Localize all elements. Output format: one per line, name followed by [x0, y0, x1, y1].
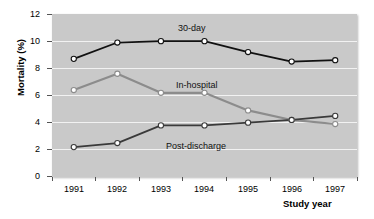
data-point-marker: [202, 90, 207, 95]
data-point-marker: [71, 56, 76, 61]
data-point-marker: [333, 121, 338, 126]
data-point-marker: [115, 140, 120, 145]
data-point-marker: [158, 123, 163, 128]
data-point-marker: [71, 145, 76, 150]
data-point-marker: [115, 71, 120, 76]
data-point-marker: [333, 113, 338, 118]
mortality-line-chart: Mortality (%) 12 10 8 6 4 2 0 1991 1992 …: [0, 0, 374, 219]
data-point-marker: [289, 59, 294, 64]
series-label-in-hospital: In-hospital: [176, 81, 218, 90]
data-point-marker: [202, 123, 207, 128]
data-point-marker: [289, 117, 294, 122]
data-point-marker: [245, 108, 250, 113]
data-point-marker: [115, 40, 120, 45]
series-label-30-day: 30-day: [178, 24, 206, 33]
data-point-marker: [333, 58, 338, 63]
data-point-marker: [245, 49, 250, 54]
series-label-post-discharge: Post-discharge: [166, 142, 226, 151]
data-point-marker: [158, 90, 163, 95]
data-point-marker: [158, 39, 163, 44]
data-point-marker: [245, 120, 250, 125]
data-point-marker: [202, 39, 207, 44]
data-point-marker: [71, 87, 76, 92]
